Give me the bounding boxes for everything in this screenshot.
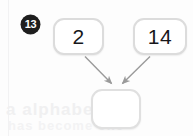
addend-1-value: 2 [72, 26, 84, 47]
page-margin-rule [8, 0, 9, 136]
addend-1-box[interactable]: 2 [53, 18, 104, 55]
answer-box[interactable] [91, 89, 141, 129]
problem-number-badge: 13 [21, 15, 40, 34]
worksheet-page: a alphabet on has become one 13 2 14 [0, 0, 193, 136]
addend-2-value: 14 [148, 26, 172, 47]
addend-2-box[interactable]: 14 [133, 18, 187, 55]
arrow-addend-2-to-answer [123, 57, 151, 84]
arrow-addend-1-to-answer [85, 57, 112, 84]
